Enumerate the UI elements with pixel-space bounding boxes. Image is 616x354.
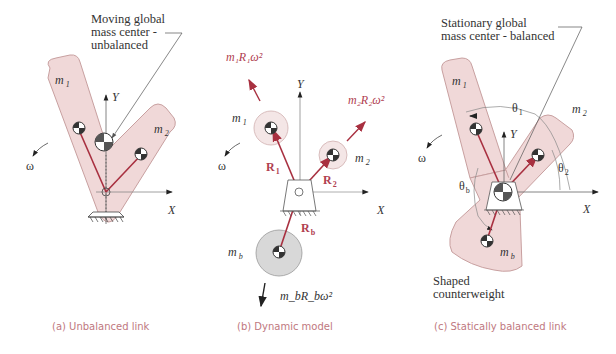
label-mb: mb: [228, 245, 243, 261]
label-omega: ω: [26, 159, 34, 173]
counterweight-line-2: counterweight: [433, 287, 505, 301]
panel-a-unbalanced-link: Moving global mass center - unbalanced m…: [26, 12, 182, 332]
label-force-m2: m₂R₂ω²: [348, 93, 385, 107]
label-m2: m2: [572, 102, 587, 118]
label-theta1: θ1: [512, 101, 523, 117]
force-arrow-mb: [261, 283, 265, 306]
global-mass-center: [95, 133, 113, 151]
global-mass-center: [494, 183, 512, 201]
label-m2: m2: [355, 151, 370, 167]
label-m1: m1: [232, 111, 247, 127]
label-omega: ω: [218, 159, 226, 173]
counterweight-line-1: Shaped: [433, 274, 471, 288]
label-Rb: Rb: [301, 221, 316, 237]
mass-center-m2: [135, 148, 147, 160]
ground-pivot: [88, 212, 124, 217]
label-force-m1: m₁R₁ω²: [226, 50, 263, 64]
force-arrow-m1: [249, 80, 260, 101]
label-theta2: θ2: [558, 161, 569, 177]
label-x-axis: X: [582, 202, 591, 216]
panel-c-statically-balanced-link: Stationary global mass center - balanced…: [418, 16, 598, 332]
mass-center-m1: [73, 122, 85, 134]
omega-arrow-icon: [225, 143, 240, 156]
annotation-line-1: Moving global: [91, 12, 165, 26]
label-R1: R1: [266, 160, 280, 176]
annotation-line-2: mass center -: [91, 25, 157, 39]
panel-b-dynamic-model: m₁R₁ω² m₂R₂ω² m_bR_bω² m1 m2 mb R1 R2 Rb…: [218, 50, 385, 332]
caption-c: (c) Statically balanced link: [434, 321, 567, 332]
label-thetab: θb: [459, 179, 470, 195]
label-R2: R2: [323, 173, 337, 189]
ground-pivot: [283, 180, 316, 211]
force-arrow-m2: [347, 122, 365, 141]
label-x-axis: X: [376, 203, 385, 217]
annotation-line-1: Stationary global: [441, 16, 527, 30]
omega-arrow-icon: [427, 135, 442, 148]
label-y-axis: Y: [510, 127, 518, 141]
label-omega: ω: [418, 151, 426, 165]
annotation-line-2: mass center - balanced: [441, 29, 555, 43]
annotation-line-3: unbalanced: [91, 38, 149, 52]
label-y-axis: Y: [112, 90, 120, 104]
label-y-axis: Y: [297, 77, 305, 91]
omega-arrow-icon: [33, 143, 48, 156]
balancing-diagram: Moving global mass center - unbalanced m…: [0, 0, 616, 354]
caption-b: (b) Dynamic model: [237, 321, 333, 332]
balanced-link-body: [442, 58, 574, 271]
label-x-axis: X: [167, 203, 176, 217]
label-force-mb: m_bR_bω²: [280, 289, 332, 303]
caption-a: (a) Unbalanced link: [52, 321, 150, 332]
